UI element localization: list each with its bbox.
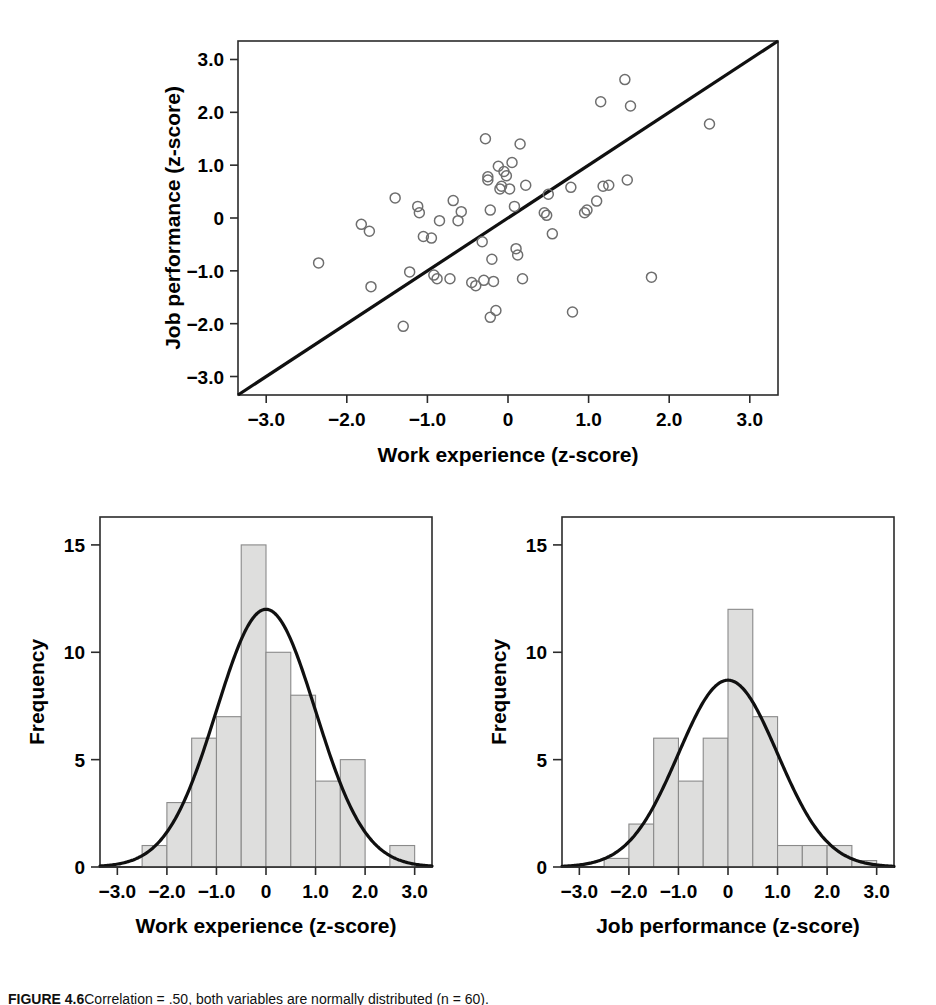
- scatter-point: [485, 205, 495, 215]
- scatter-point: [704, 119, 714, 129]
- job-performance-histogram-x-tick-label: 1.0: [764, 881, 790, 902]
- scatter-plot-panel: −3.0−2.0−1.001.02.03.0−3.0−2.0−1.001.02.…: [0, 0, 936, 490]
- scatter-point: [592, 196, 602, 206]
- scatter-point: [547, 229, 557, 239]
- scatter-y-tick-label: 0: [213, 208, 224, 229]
- scatter-point: [477, 237, 487, 247]
- job-performance-histogram-bar: [604, 858, 629, 867]
- scatter-x-tick-label: −2.0: [328, 409, 366, 430]
- scatter-point: [405, 267, 415, 277]
- work-experience-histogram-x-tick-label: −1.0: [198, 881, 236, 902]
- scatter-point: [646, 272, 656, 282]
- job-performance-histogram-bar: [802, 846, 827, 867]
- scatter-point: [491, 305, 501, 315]
- work-experience-histogram-y-axis-title: Frequency: [25, 639, 48, 746]
- scatter-point: [622, 175, 632, 185]
- scatter-x-tick-label: 1.0: [575, 409, 601, 430]
- work-experience-histogram-x-tick-label: 1.0: [302, 881, 328, 902]
- job-performance-histogram-y-tick-label: 5: [536, 750, 547, 771]
- scatter-point: [364, 226, 374, 236]
- scatter-point: [314, 258, 324, 268]
- scatter-point: [515, 139, 525, 149]
- scatter-point: [456, 207, 466, 217]
- scatter-y-tick-label: 1.0: [198, 155, 224, 176]
- job-performance-histogram-x-tick-label: 2.0: [814, 881, 840, 902]
- job-performance-histogram-y-tick-label: 0: [536, 857, 547, 878]
- job-performance-histogram-bar: [678, 781, 703, 867]
- scatter-x-tick-label: −3.0: [247, 409, 285, 430]
- job-performance-histogram-bar: [778, 846, 803, 867]
- scatter-point: [521, 180, 531, 190]
- scatter-x-tick-label: 3.0: [737, 409, 763, 430]
- scatter-point: [479, 275, 489, 285]
- scatter-point: [507, 158, 517, 168]
- scatter-point: [518, 274, 528, 284]
- job-performance-histogram-bar: [753, 717, 778, 867]
- job-performance-histogram-x-tick-label: 3.0: [863, 881, 889, 902]
- work-experience-histogram-y-tick-label: 15: [64, 535, 86, 556]
- scatter-point: [390, 193, 400, 203]
- work-experience-histogram-bar: [316, 781, 341, 867]
- scatter-point: [539, 208, 549, 218]
- job-performance-histogram-x-tick-label: 0: [723, 881, 734, 902]
- work-experience-histogram-y-tick-label: 10: [64, 642, 85, 663]
- scatter-point: [567, 307, 577, 317]
- scatter-y-tick-label: −3.0: [186, 367, 224, 388]
- scatter-x-tick-label: 2.0: [656, 409, 682, 430]
- scatter-point: [542, 210, 552, 220]
- scatter-point: [485, 312, 495, 322]
- work-experience-histogram-bar: [266, 652, 291, 867]
- scatter-point: [620, 75, 630, 85]
- scatter-y-tick-label: −2.0: [186, 314, 224, 335]
- work-experience-histogram-x-axis-title: Work experience (z-score): [135, 914, 396, 937]
- job-performance-histogram-bar: [728, 609, 753, 867]
- work-experience-histogram-panel: −3.0−2.0−1.001.02.03.0051015Work experie…: [0, 495, 470, 965]
- job-performance-histogram-y-tick-label: 15: [526, 535, 548, 556]
- job-performance-histogram-bar: [703, 738, 728, 867]
- job-performance-histogram-y-tick-label: 10: [526, 642, 547, 663]
- statistics-figure: −3.0−2.0−1.001.02.03.0−3.0−2.0−1.001.02.…: [0, 0, 936, 1005]
- figure-caption: FIGURE 4.6Correlation = .50, both variab…: [0, 992, 936, 1005]
- work-experience-histogram-bar: [291, 695, 316, 867]
- scatter-y-tick-label: 3.0: [198, 49, 224, 70]
- scatter-point: [434, 216, 444, 226]
- job-performance-histogram-x-tick-label: −2.0: [610, 881, 648, 902]
- work-experience-histogram-x-tick-label: −3.0: [99, 881, 137, 902]
- scatter-y-axis-title: Job performance (z-score): [161, 86, 184, 350]
- scatter-point: [480, 134, 490, 144]
- job-performance-histogram-x-axis-title: Job performance (z-score): [596, 914, 860, 937]
- work-experience-histogram-bars-group: [142, 545, 415, 867]
- scatter-x-tick-label: 0: [503, 409, 514, 430]
- work-experience-histogram-x-tick-label: −2.0: [148, 881, 186, 902]
- scatter-point: [580, 208, 590, 218]
- scatter-point: [509, 201, 519, 211]
- scatter-point: [398, 321, 408, 331]
- work-experience-histogram-y-tick-label: 0: [74, 857, 85, 878]
- job-performance-histogram-y-axis-title: Frequency: [487, 639, 510, 746]
- job-performance-histogram-bar: [629, 824, 654, 867]
- scatter-point: [366, 282, 376, 292]
- scatter-points-group: [314, 75, 715, 332]
- job-performance-histogram-x-tick-label: −1.0: [660, 881, 698, 902]
- figure-caption-body: Correlation = .50, both variables are no…: [84, 992, 489, 1005]
- work-experience-histogram-bar: [216, 717, 241, 867]
- work-experience-histogram-bar: [142, 846, 167, 867]
- scatter-point: [413, 201, 423, 211]
- scatter-point: [488, 276, 498, 286]
- job-performance-histogram-x-tick-label: −3.0: [561, 881, 599, 902]
- scatter-x-axis-title: Work experience (z-score): [377, 443, 638, 466]
- scatter-point: [511, 244, 521, 254]
- figure-caption-label: FIGURE 4.6: [8, 992, 84, 1005]
- scatter-point: [582, 205, 592, 215]
- scatter-point: [513, 250, 523, 260]
- figure-caption-text: FIGURE 4.6Correlation = .50, both variab…: [0, 992, 936, 1005]
- scatter-x-tick-label: −1.0: [409, 409, 447, 430]
- work-experience-histogram-bar: [241, 545, 266, 867]
- scatter-point: [626, 101, 636, 111]
- identity-reference-line: [238, 41, 778, 395]
- job-performance-histogram-panel: −3.0−2.0−1.001.02.03.0051015Job performa…: [462, 495, 932, 965]
- scatter-point: [487, 254, 497, 264]
- scatter-point: [414, 208, 424, 218]
- scatter-point: [445, 274, 455, 284]
- scatter-point: [566, 182, 576, 192]
